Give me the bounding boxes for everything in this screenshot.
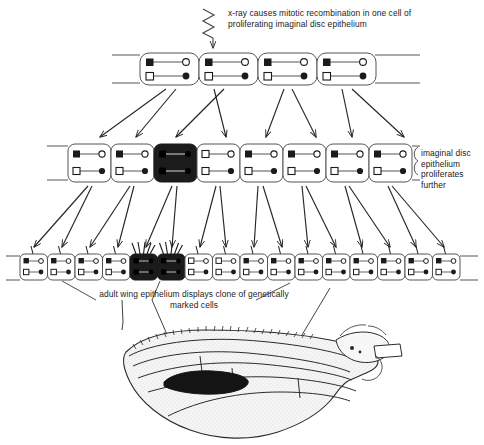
division-arrows-middle-to-bottom — [34, 186, 444, 247]
bottom-cell-6-marked — [158, 242, 186, 280]
bottom-cell-11 — [295, 246, 323, 280]
bottom-cell-2 — [48, 246, 76, 280]
bottom-cell-8 — [213, 246, 241, 280]
bottom-cell-5-marked — [130, 242, 158, 280]
bottom-cell-15 — [405, 246, 433, 280]
bottom-cell-3 — [75, 246, 103, 280]
bottom-cell-13 — [350, 246, 378, 280]
middle-cell-5 — [240, 144, 283, 182]
top-cell-2 — [199, 53, 258, 85]
top-cell-1 — [140, 53, 199, 85]
epithelium-line-left — [112, 55, 140, 83]
clone-caption: adult wing epithelium displays clone of … — [88, 289, 300, 310]
middle-cell-6 — [283, 144, 326, 182]
top-cell-3 — [258, 53, 317, 85]
xray-arrow-icon — [203, 9, 214, 48]
bottom-cell-10 — [268, 246, 296, 280]
middle-cell-4-reciprocal — [197, 144, 240, 182]
xray-caption: x-ray causes mitotic recombination in on… — [228, 8, 418, 29]
adult-wing-illustration — [123, 325, 402, 438]
epithelium-line-left-bottom — [6, 256, 20, 280]
bottom-cell-14 — [378, 246, 406, 280]
row-bottom — [6, 242, 478, 280]
clone-patch — [164, 371, 248, 394]
epithelium-line-right — [375, 55, 420, 83]
middle-cell-2 — [111, 144, 154, 182]
middle-cell-7 — [326, 144, 369, 182]
middle-cell-3-marked — [154, 144, 197, 182]
row-middle — [47, 144, 420, 182]
division-arrows-top-to-middle — [100, 89, 404, 137]
middle-cell-1 — [68, 144, 111, 182]
figure-canvas: x-ray causes mitotic recombination in on… — [0, 0, 484, 445]
row-top — [112, 53, 420, 85]
middle-cell-8 — [369, 144, 412, 182]
bottom-cell-7 — [185, 246, 213, 280]
bottom-cell-1 — [20, 246, 48, 280]
side-bracket — [414, 147, 418, 175]
bottom-cell-9 — [240, 246, 268, 280]
side-caption: imaginal disc epithelium proliferates fu… — [421, 148, 483, 190]
bottom-cell-12 — [323, 246, 351, 280]
top-cell-4 — [317, 53, 376, 85]
epithelium-line-left-middle — [47, 146, 68, 180]
diagram-svg — [0, 0, 484, 445]
bottom-cell-16 — [433, 246, 461, 280]
epithelium-line-right-bottom — [460, 256, 478, 280]
bottom-cell-4 — [103, 246, 131, 280]
